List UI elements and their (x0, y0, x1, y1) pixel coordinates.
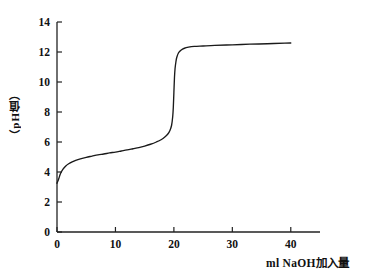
y-tick-label: 8 (44, 106, 50, 118)
x-tick-label: 30 (227, 238, 239, 250)
y-tick-label: 14 (39, 16, 51, 28)
y-tick-label: 4 (44, 166, 50, 178)
x-tick-label: 0 (54, 238, 60, 250)
x-tick-label: 10 (110, 238, 122, 250)
y-tick-label: 6 (44, 136, 50, 148)
ph-curve (57, 43, 291, 183)
x-axis-ticks (57, 227, 291, 232)
x-tick-label: 40 (285, 238, 297, 250)
y-tick-label: 12 (39, 46, 51, 58)
y-axis-title: （pH值） (6, 88, 24, 141)
y-tick-label: 2 (44, 196, 50, 208)
x-axis-title: ml NaOH加入量 (266, 254, 350, 270)
y-tick-label: 10 (39, 76, 51, 88)
y-axis-ticks (57, 22, 62, 232)
titration-curve-figure: 02468101214 010203040 （pH值） ml NaOH加入量 (0, 0, 386, 280)
y-tick-label: 0 (44, 226, 50, 238)
x-tick-label: 20 (168, 238, 180, 250)
